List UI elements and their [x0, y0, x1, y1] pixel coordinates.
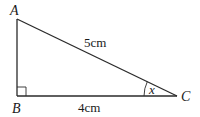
angle-label-x: x: [148, 82, 155, 97]
vertex-label-a: A: [9, 3, 19, 18]
triangle-diagram: A B C 5cm 4cm x: [0, 0, 200, 117]
vertex-label-b: B: [12, 101, 21, 116]
right-angle-marker: [17, 87, 26, 96]
base-length-label: 4cm: [78, 100, 100, 115]
angle-arc-c: [144, 82, 147, 96]
vertex-label-c: C: [181, 89, 191, 104]
hypotenuse-length-label: 5cm: [84, 35, 106, 50]
